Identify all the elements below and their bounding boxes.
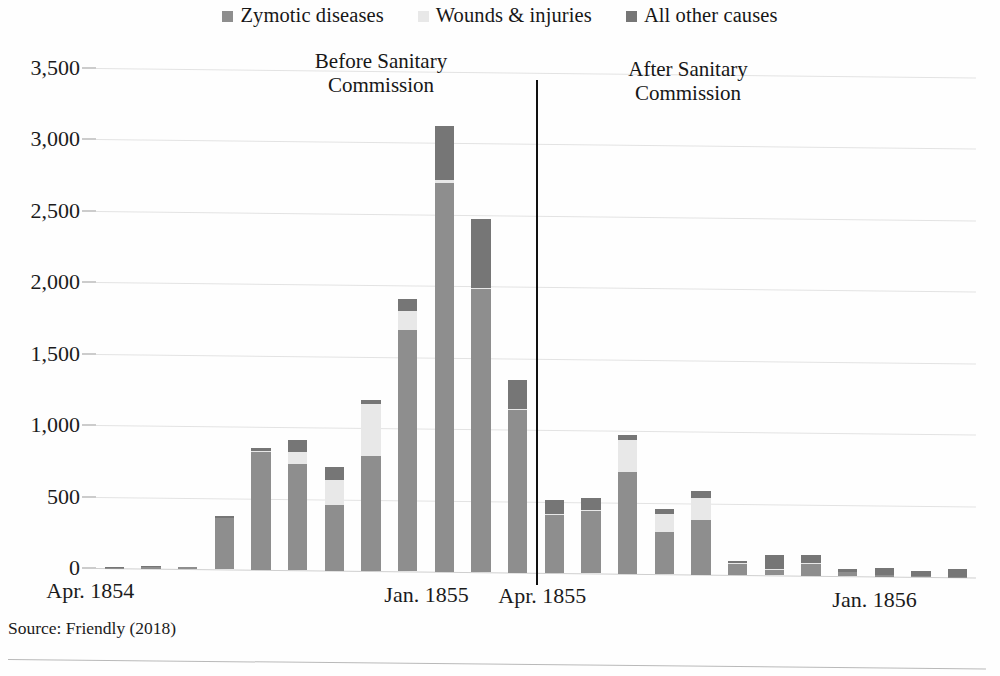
y-axis-tick-label: 2,000 bbox=[0, 269, 80, 295]
annotation-before-line1: Before Sanitary bbox=[236, 50, 526, 74]
bar-segment-all-other-causes bbox=[398, 299, 417, 311]
bar-segment-wounds-injuries bbox=[691, 498, 710, 520]
bar-aug-1855[interactable] bbox=[691, 491, 710, 574]
y-axis-tick-mark bbox=[82, 210, 96, 211]
bar-segment-zymotic-diseases bbox=[361, 456, 380, 571]
bar-sep-1855[interactable] bbox=[728, 561, 747, 575]
annotation-after-sanitary-commission: After Sanitary Commission bbox=[548, 58, 828, 105]
bar-segment-zymotic-diseases bbox=[435, 183, 454, 572]
bar-segment-all-other-causes bbox=[581, 498, 600, 510]
bar-segment-zymotic-diseases bbox=[141, 567, 160, 569]
bar-dec-1854[interactable] bbox=[398, 299, 417, 571]
bar-segment-all-other-causes bbox=[471, 219, 490, 287]
bar-segment-all-other-causes bbox=[288, 440, 307, 452]
bar-apr-1854[interactable] bbox=[105, 567, 124, 568]
annotation-after-line1: After Sanitary bbox=[548, 58, 828, 82]
x-axis-tick-label: Jan. 1855 bbox=[384, 582, 468, 608]
bar-segment-wounds-injuries bbox=[618, 440, 637, 471]
bar-segment-zymotic-diseases bbox=[875, 575, 894, 576]
bar-segment-all-other-causes bbox=[801, 555, 820, 563]
bar-jun-1855[interactable] bbox=[618, 435, 637, 573]
x-axis-tick-label: Apr. 1854 bbox=[46, 578, 134, 604]
bar-segment-zymotic-diseases bbox=[325, 505, 344, 571]
x-axis-tick-label: Apr. 1855 bbox=[498, 583, 586, 609]
annotation-after-line2: Commission bbox=[548, 82, 828, 106]
bar-segment-zymotic-diseases bbox=[471, 289, 490, 572]
bar-segment-wounds-injuries bbox=[398, 311, 417, 330]
bar-aug-1854[interactable] bbox=[251, 448, 270, 570]
bar-segment-zymotic-diseases bbox=[581, 511, 600, 573]
x-axis-tick-label: Jan. 1856 bbox=[832, 587, 916, 613]
bar-nov-1854[interactable] bbox=[361, 400, 380, 571]
bar-jan-1855[interactable] bbox=[435, 126, 454, 572]
bar-segment-zymotic-diseases bbox=[545, 515, 564, 573]
bar-segment-zymotic-diseases bbox=[398, 330, 417, 571]
bar-feb-1855[interactable] bbox=[471, 219, 490, 572]
y-axis-tick-label: 1,500 bbox=[0, 341, 80, 367]
bar-segment-wounds-injuries bbox=[655, 514, 674, 531]
bar-segment-zymotic-diseases bbox=[251, 452, 270, 570]
y-axis-tick-label: 3,500 bbox=[0, 55, 80, 81]
bar-segment-zymotic-diseases bbox=[655, 532, 674, 575]
y-axis-tick-label: 2,500 bbox=[0, 198, 80, 224]
bar-segment-zymotic-diseases bbox=[948, 577, 967, 578]
bar-segment-all-other-causes bbox=[765, 555, 784, 569]
bar-segment-zymotic-diseases bbox=[288, 464, 307, 570]
bar-segment-zymotic-diseases bbox=[801, 564, 820, 576]
y-axis-tick-mark bbox=[82, 282, 96, 283]
bar-segment-wounds-injuries bbox=[361, 404, 380, 456]
annotation-before-line2: Commission bbox=[236, 74, 526, 98]
bar-jul-1854[interactable] bbox=[215, 516, 234, 569]
annotation-before-sanitary-commission: Before Sanitary Commission bbox=[236, 50, 526, 97]
bar-may-1854[interactable] bbox=[141, 566, 160, 569]
bar-segment-zymotic-diseases bbox=[178, 567, 197, 569]
bar-segment-wounds-injuries bbox=[325, 480, 344, 504]
bar-may-1855[interactable] bbox=[581, 498, 600, 573]
bar-segment-all-other-causes bbox=[948, 569, 967, 576]
y-axis-tick-label: 3,000 bbox=[0, 126, 80, 152]
bar-segment-zymotic-diseases bbox=[691, 520, 710, 575]
bar-dec-1855[interactable] bbox=[838, 569, 857, 577]
chart-page: Zymotic diseases Wounds & injuries All o… bbox=[0, 0, 1000, 676]
y-axis-tick-mark bbox=[82, 568, 96, 569]
bar-segment-zymotic-diseases bbox=[105, 568, 124, 569]
y-axis-tick-label: 0 bbox=[0, 555, 80, 581]
bar-nov-1855[interactable] bbox=[801, 555, 820, 575]
bar-apr-1855[interactable] bbox=[545, 500, 564, 573]
bar-mar-1856[interactable] bbox=[948, 569, 967, 577]
bar-segment-all-other-causes bbox=[435, 126, 454, 181]
bar-jan-1856[interactable] bbox=[875, 568, 894, 577]
bar-jun-1854[interactable] bbox=[178, 567, 197, 569]
y-axis-tick-label: 500 bbox=[0, 484, 80, 510]
bar-segment-zymotic-diseases bbox=[838, 572, 857, 576]
y-axis-tick-mark bbox=[82, 139, 96, 140]
bar-segment-all-other-causes bbox=[325, 467, 344, 481]
y-axis-tick-label: 1,000 bbox=[0, 412, 80, 438]
bar-segment-wounds-injuries bbox=[288, 452, 307, 463]
bar-feb-1856[interactable] bbox=[911, 571, 930, 577]
bar-segment-zymotic-diseases bbox=[911, 576, 930, 577]
bar-segment-zymotic-diseases bbox=[765, 570, 784, 575]
bar-jul-1855[interactable] bbox=[655, 509, 674, 574]
bar-segment-all-other-causes bbox=[508, 380, 527, 410]
bar-segment-all-other-causes bbox=[545, 500, 564, 514]
bar-mar-1855[interactable] bbox=[508, 380, 527, 573]
y-axis-tick-mark bbox=[82, 68, 96, 69]
y-axis-tick-mark bbox=[82, 353, 96, 354]
bar-sep-1854[interactable] bbox=[288, 440, 307, 570]
bar-oct-1855[interactable] bbox=[765, 555, 784, 575]
bar-segment-zymotic-diseases bbox=[508, 410, 527, 573]
source-note: Source: Friendly (2018) bbox=[8, 618, 176, 639]
bar-segment-zymotic-diseases bbox=[618, 472, 637, 574]
y-axis-tick-mark bbox=[82, 425, 96, 426]
sanitary-commission-divider bbox=[536, 80, 538, 585]
bar-segment-zymotic-diseases bbox=[215, 518, 234, 569]
y-axis-tick-mark bbox=[82, 496, 96, 497]
bar-segment-zymotic-diseases bbox=[728, 564, 747, 575]
bar-oct-1854[interactable] bbox=[325, 467, 344, 571]
